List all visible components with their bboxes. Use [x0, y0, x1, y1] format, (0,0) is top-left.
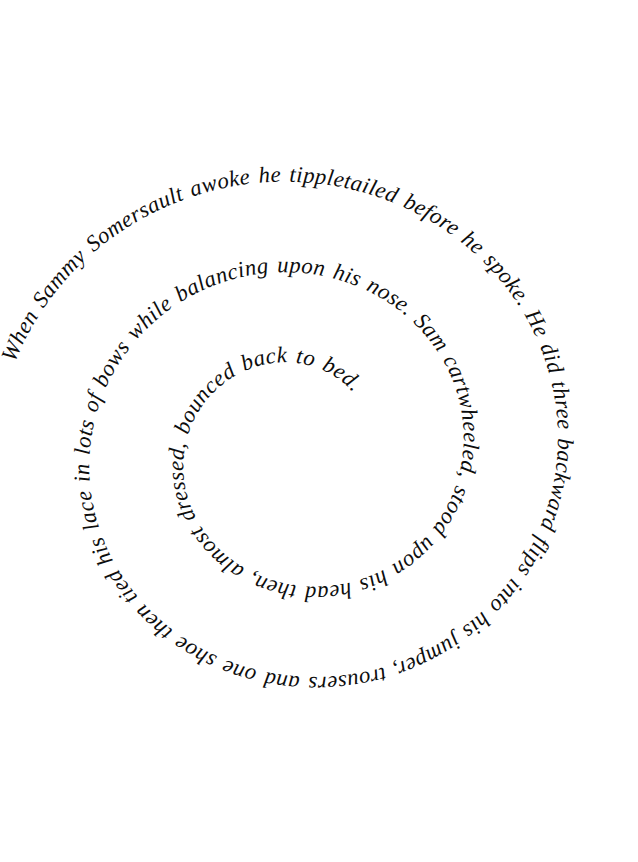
spiral-text-path: When Sammy Somersault awoke he tippletai…	[0, 162, 578, 697]
spiral-text-canvas: When Sammy Somersault awoke he tippletai…	[0, 0, 638, 862]
spiral-text-page: When Sammy Somersault awoke he tippletai…	[0, 0, 638, 862]
spiral-text-body: When Sammy Somersault awoke he tippletai…	[0, 162, 578, 697]
